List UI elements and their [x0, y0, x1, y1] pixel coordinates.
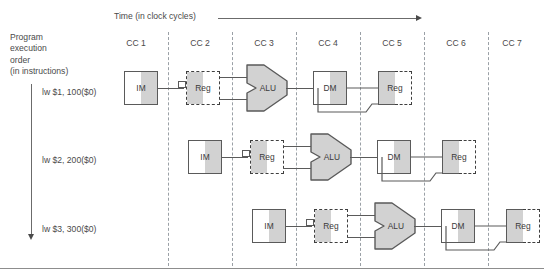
- row3-stage-reg-label: Reg: [315, 221, 347, 231]
- cc-label-5: CC 5: [360, 38, 424, 48]
- row1-stage-alu-label: ALU: [260, 83, 276, 93]
- row3-stage-alu: ALU: [374, 202, 416, 250]
- row2-stage-alu: ALU: [310, 133, 352, 181]
- cc-label-4: CC 4: [296, 38, 360, 48]
- row1-wire-reg-alu-b: [220, 99, 248, 100]
- row2-stage-im: IM: [188, 140, 222, 174]
- column-divider-4: [360, 32, 361, 266]
- row3-stage-reg: Reg: [314, 209, 348, 243]
- column-divider-3: [296, 32, 297, 266]
- row1-stage-reg: Reg: [186, 71, 220, 105]
- time-axis-arrow-head: [416, 15, 422, 21]
- row2-latch-if-id: [242, 150, 250, 157]
- column-divider-1: [168, 32, 169, 266]
- row3-stage-im-label: IM: [253, 221, 285, 231]
- bottom-rule: [0, 268, 544, 269]
- cc-label-6: CC 6: [424, 38, 488, 48]
- instruction-label-3: lw $3, 300($0): [42, 224, 96, 234]
- program-order-arrow-head: [28, 234, 34, 240]
- row1-latch-if-id: [178, 81, 186, 88]
- row2-stage-reg: Reg: [250, 140, 284, 174]
- row2-wire-reg-alu-a: [284, 146, 312, 147]
- row2-stage-dm-label: DM: [378, 152, 410, 162]
- time-axis-arrow-line: [218, 18, 418, 19]
- row3-latch-if-id: [306, 219, 314, 226]
- row1-stage-reg-wb: Reg: [378, 71, 412, 105]
- row1-wire-reg-alu-a: [220, 77, 248, 78]
- cc-label-1: CC 1: [104, 38, 168, 48]
- row1-stage-dm-label: DM: [314, 83, 346, 93]
- time-axis-label: Time (in clock cycles): [114, 11, 196, 21]
- cc-label-3: CC 3: [232, 38, 296, 48]
- instruction-label-1: lw $1, 100($0): [42, 87, 96, 97]
- row1-stage-reg-wb-label: Reg: [378, 83, 412, 93]
- row3-stage-reg-wb-label: Reg: [506, 221, 540, 231]
- cc-label-7: CC 7: [480, 38, 544, 48]
- column-divider-5: [424, 32, 425, 266]
- row3-stage-alu-label: ALU: [388, 221, 404, 231]
- program-order-label: Program execution order (in instructions…: [10, 32, 68, 78]
- column-divider-2: [232, 32, 233, 266]
- row1-stage-im-label: IM: [125, 83, 157, 93]
- instruction-label-2: lw $2, 200($0): [42, 155, 96, 165]
- row3-wire-reg-alu-b: [348, 237, 376, 238]
- pipeline-diagram: Time (in clock cycles) CC 1 CC 2 CC 3 CC…: [0, 0, 544, 278]
- row3-stage-im: IM: [252, 209, 286, 243]
- program-order-arrow-line: [31, 84, 32, 236]
- row3-stage-dm-label: DM: [442, 221, 474, 231]
- cc-label-2: CC 2: [168, 38, 232, 48]
- row2-wire-reg-alu-b: [284, 168, 312, 169]
- row1-stage-reg-label: Reg: [187, 83, 219, 93]
- row2-stage-reg-label: Reg: [251, 152, 283, 162]
- row1-stage-im: IM: [124, 71, 158, 105]
- row3-wire-reg-alu-a: [348, 215, 376, 216]
- row2-stage-alu-label: ALU: [324, 152, 340, 162]
- row1-stage-alu: ALU: [246, 64, 288, 112]
- row2-stage-reg-wb: Reg: [442, 140, 476, 174]
- row3-stage-reg-wb: Reg: [506, 209, 540, 243]
- row2-stage-im-label: IM: [189, 152, 221, 162]
- row2-stage-reg-wb-label: Reg: [442, 152, 476, 162]
